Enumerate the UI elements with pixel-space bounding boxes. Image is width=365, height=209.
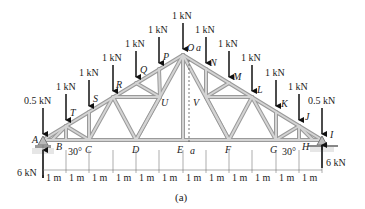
joint-label-k: K [280,98,289,109]
section-label-a-bottom: a [190,145,195,156]
joint-label-m: M [232,71,242,82]
angle-label-right: 30° [282,146,296,157]
joint-label-n: N [209,57,218,68]
dimension-label: 1 m [302,172,318,183]
dimension-label: 1 m [46,172,62,183]
angle-label-left: 30° [68,146,82,157]
joint-label-j: J [305,111,310,122]
dimension-label: 1 m [139,172,155,183]
load-label-m: 1 kN [218,38,238,49]
joint-label-r: R [115,79,122,90]
dimension-label: 1 m [162,172,178,183]
dimension-label: 1 m [255,172,271,183]
dimension-label: 1 m [232,172,248,183]
joint-label-h: H [301,141,310,152]
load-label-l: 1 kN [241,52,261,63]
dimension-labels: 1 m 1 m 1 m 1 m 1 m 1 m 1 m 1 m 1 m 1 m … [46,172,318,183]
load-label-i: 0.5 kN [308,95,335,106]
joint-label-p: P [162,51,169,62]
reaction-label-left: 6 kN [17,167,37,178]
joint-label-a: A [31,134,39,145]
dimension-label: 1 m [69,172,85,183]
load-label-r: 1 kN [102,52,122,63]
dimension-label: 1 m [116,172,132,183]
dimension-label: 1 m [92,172,108,183]
load-label-n: 1 kN [195,24,215,35]
joint-label-i: I [329,129,334,140]
load-label-j: 1 kN [288,81,308,92]
joint-label-l: L [256,84,263,95]
joint-label-b: B [56,141,62,152]
load-label-o: 1 kN [172,10,192,21]
joint-label-q: Q [140,64,148,75]
dimension-label: 1 m [279,172,295,183]
joint-label-e: E [176,144,183,155]
section-label-a-top: a [196,42,201,53]
load-label-q: 1 kN [125,38,145,49]
joint-label-u: U [161,97,169,108]
joint-label-d: D [131,144,140,155]
dimension-label: 1 m [209,172,225,183]
joint-label-f: F [224,144,232,155]
joint-label-t: T [70,107,77,118]
dimension-label: 1 m [186,172,202,183]
joint-label-v: V [193,97,201,108]
load-label-s: 1 kN [79,67,99,78]
load-label-k: 1 kN [265,67,285,78]
load-label-t: 1 kN [56,81,76,92]
load-label-a: 0.5 kN [24,95,51,106]
reaction-label-right: 6 kN [326,157,346,168]
joint-label-c: C [85,144,92,155]
load-label-p: 1 kN [148,24,168,35]
joint-label-s: S [93,93,98,104]
joint-label-o: O [187,42,194,53]
figure-caption: (a) [175,191,188,204]
truss-diagram: 0.5 kN 1 kN 1 kN 1 kN 1 kN 1 kN 1 kN 1 k… [0,0,365,209]
